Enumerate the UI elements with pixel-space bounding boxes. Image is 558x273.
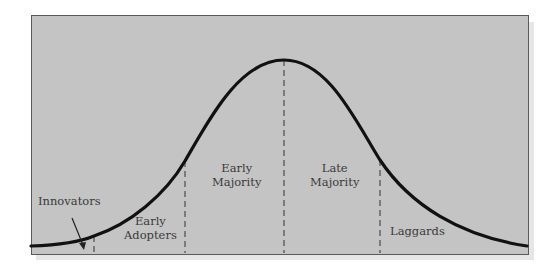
label-early-adopters: Early Adopters [124, 214, 177, 242]
innovators-arrow [72, 218, 86, 250]
label-late-majority: Late Majority [310, 161, 359, 189]
adoption-curve [31, 60, 527, 246]
bell-curve-diagram [0, 0, 558, 273]
label-early-majority: Early Majority [212, 161, 261, 189]
label-laggards: Laggards [390, 224, 445, 238]
label-innovators: Innovators [38, 194, 101, 208]
